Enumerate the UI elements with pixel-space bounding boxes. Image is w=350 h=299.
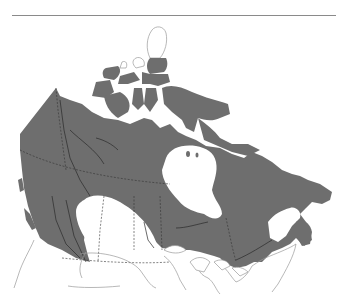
canada-range-map: [0, 0, 350, 299]
